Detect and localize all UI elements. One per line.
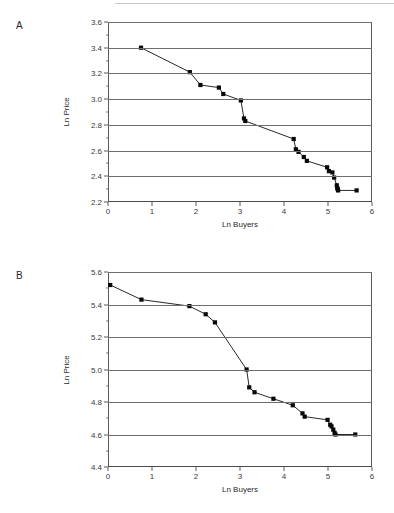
gridline-y-a (108, 176, 372, 177)
y-tick-mark-b (104, 402, 108, 403)
y-tick-label-a: 2.2 (91, 198, 102, 207)
y-tick-label-b: 5.6 (91, 268, 102, 277)
x-axis-title-a: Ln Buyers (222, 220, 258, 229)
x-tick-mark-a (152, 202, 153, 206)
plot-area-a: Ln Buyers Ln Price 2.22.42.62.83.03.23.4… (108, 22, 372, 202)
x-tick-mark-b (240, 467, 241, 471)
panel-label-a: A (16, 20, 23, 31)
data-point-marker-b (271, 397, 275, 401)
y-tick-label-a: 3.4 (91, 43, 102, 52)
x-tick-label-a: 1 (150, 207, 154, 216)
y-tick-label-a: 3.2 (91, 69, 102, 78)
data-point-marker-a (292, 137, 296, 141)
data-point-marker-a (221, 92, 225, 96)
x-tick-label-b: 4 (282, 472, 286, 481)
y-minor-tick-b (106, 353, 109, 354)
gridline-y-a (108, 48, 372, 49)
x-tick-label-b: 5 (326, 472, 330, 481)
x-tick-label-b: 3 (238, 472, 242, 481)
x-axis-title-b: Ln Buyers (222, 485, 258, 494)
y-minor-tick-a (106, 137, 109, 138)
y-minor-tick-a (106, 60, 109, 61)
x-tick-label-a: 4 (282, 207, 286, 216)
y-minor-tick-a (106, 86, 109, 87)
y-tick-mark-b (104, 304, 108, 305)
x-tick-label-b: 6 (370, 472, 374, 481)
y-tick-label-b: 5.2 (91, 333, 102, 342)
y-minor-tick-a (106, 189, 109, 190)
y-tick-label-b: 5.0 (91, 365, 102, 374)
gridline-y-a (108, 22, 372, 23)
x-tick-mark-b (152, 467, 153, 471)
gridline-y-b (108, 402, 372, 403)
x-tick-mark-b (196, 467, 197, 471)
gridline-y-b (108, 435, 372, 436)
x-tick-mark-a (240, 202, 241, 206)
data-point-marker-a (325, 165, 329, 169)
y-minor-tick-b (106, 288, 109, 289)
x-tick-mark-b (108, 467, 109, 471)
x-tick-mark-a (108, 202, 109, 206)
x-tick-label-b: 1 (150, 472, 154, 481)
y-tick-mark-b (104, 337, 108, 338)
data-point-marker-a (305, 159, 309, 163)
data-point-marker-a (330, 170, 334, 174)
x-tick-mark-b (328, 467, 329, 471)
y-tick-mark-a (104, 47, 108, 48)
y-tick-mark-b (104, 272, 108, 273)
y-minor-tick-a (106, 163, 109, 164)
y-tick-label-a: 3.0 (91, 95, 102, 104)
series-line-a (141, 48, 357, 191)
data-point-marker-a (243, 119, 247, 123)
data-point-marker-b (108, 283, 112, 287)
y-tick-mark-a (104, 73, 108, 74)
y-tick-mark-a (104, 124, 108, 125)
x-tick-mark-a (372, 202, 373, 206)
y-tick-mark-b (104, 369, 108, 370)
y-tick-label-b: 4.8 (91, 398, 102, 407)
x-tick-label-a: 5 (326, 207, 330, 216)
plot-area-b: Ln Buyers Ln Price 4.44.64.85.05.25.45.6… (108, 272, 372, 467)
data-point-marker-b (325, 418, 329, 422)
data-point-marker-a (217, 85, 221, 89)
y-axis-title-b: Ln Price (62, 355, 71, 384)
data-point-marker-b (213, 320, 217, 324)
data-point-marker-b (291, 403, 295, 407)
gridline-y-a (108, 73, 372, 74)
gridline-y-b (108, 337, 372, 338)
gridline-y-b (108, 272, 372, 273)
y-tick-label-a: 2.4 (91, 172, 102, 181)
gridline-y-b (108, 370, 372, 371)
x-tick-mark-a (328, 202, 329, 206)
y-minor-tick-a (106, 34, 109, 35)
data-point-marker-a (355, 188, 359, 192)
x-tick-label-b: 0 (106, 472, 110, 481)
y-tick-label-b: 5.4 (91, 300, 102, 309)
y-tick-label-a: 2.8 (91, 120, 102, 129)
x-tick-mark-a (284, 202, 285, 206)
data-point-marker-b (252, 390, 256, 394)
data-point-marker-a (336, 188, 340, 192)
data-series-a (108, 22, 372, 202)
x-tick-label-a: 3 (238, 207, 242, 216)
y-tick-mark-a (104, 176, 108, 177)
x-tick-label-a: 2 (194, 207, 198, 216)
x-tick-label-a: 6 (370, 207, 374, 216)
gridline-y-a (108, 125, 372, 126)
panel-label-b: B (16, 270, 23, 281)
y-minor-tick-b (106, 450, 109, 451)
gridline-y-b (108, 305, 372, 306)
x-tick-label-b: 2 (194, 472, 198, 481)
data-point-marker-a (302, 155, 306, 159)
x-tick-label-a: 0 (106, 207, 110, 216)
y-tick-label-a: 2.6 (91, 146, 102, 155)
y-minor-tick-a (106, 112, 109, 113)
series-line-b (110, 285, 355, 435)
data-point-marker-b (247, 385, 251, 389)
y-minor-tick-b (106, 320, 109, 321)
x-tick-mark-b (284, 467, 285, 471)
y-tick-label-a: 3.6 (91, 18, 102, 27)
data-point-marker-b (139, 298, 143, 302)
y-minor-tick-b (106, 418, 109, 419)
x-tick-mark-b (372, 467, 373, 471)
